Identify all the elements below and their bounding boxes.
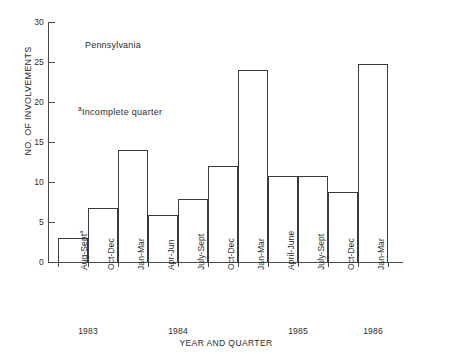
x-tick-8 [298,263,299,267]
x-tick-end [388,263,389,267]
chart-page: NO. OF INVOLVEMENTS 051015202530 Pennsyl… [0,0,452,354]
x-tick-9 [328,263,329,267]
x-tick-5 [208,263,209,267]
x-tick-1 [88,263,89,267]
y-tick-label-20: 20 [4,98,44,107]
x-tick-4 [178,263,179,267]
year-label-1985: 1985 [278,327,318,336]
x-tick-10 [358,263,359,267]
x-tick-7 [268,263,269,267]
plot-area [48,22,400,262]
x-tick-6 [238,263,239,267]
year-label-1986: 1986 [353,327,393,336]
x-axis-label-0: Aug-Septa [77,230,89,270]
year-label-1984: 1984 [158,327,198,336]
y-tick-label-30: 30 [4,18,44,27]
x-axis-label-9: Oct-Dec [347,238,356,270]
y-tick-0 [49,262,55,263]
x-axis-label-1: Oct-Dec [107,238,116,270]
x-tick-2 [118,263,119,267]
y-tick-label-15: 15 [4,138,44,147]
x-axis-label-8: July-Sept [317,234,326,270]
x-tick-3 [148,263,149,267]
x-axis-label-10: Jan-Mar [377,238,386,270]
x-axis-label-4: July-Sept [197,234,206,270]
x-tick-0 [58,263,59,267]
y-tick-label-0: 0 [4,258,44,267]
y-tick-label-25: 25 [4,58,44,67]
x-axis-label-6: Jan-Mar [257,238,266,270]
x-axis-label-7: April-June [287,231,296,270]
x-axis-label-2: Jan-Mar [137,238,146,270]
y-tick-label-5: 5 [4,218,44,227]
x-axis-title: YEAR AND QUARTER [0,338,452,348]
year-label-1983: 1983 [68,327,108,336]
x-axis-label-3: Apr-Jun [167,240,176,270]
x-axis-label-5: Oct-Dec [227,238,236,270]
bar-jan-mar-10 [358,64,388,262]
bar-jan-mar-6 [238,70,268,262]
y-tick-label-10: 10 [4,178,44,187]
